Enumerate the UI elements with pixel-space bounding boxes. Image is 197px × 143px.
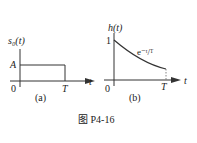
panel-b-T-label: T (161, 82, 167, 92)
panel-a-y-axis-label: s₀(t) (8, 36, 25, 46)
panel-b-level-label: 1 (106, 36, 111, 46)
panel-b-curve-label: e⁻ᵗ/ᵀ (137, 48, 153, 57)
panel-b-sublabel: (b) (129, 93, 141, 103)
panel-b-diagram (104, 33, 181, 86)
panel-b-origin-label: 0 (105, 84, 110, 94)
figure-caption: 图 P4-16 (78, 115, 114, 125)
panel-a-diagram (10, 49, 95, 87)
panel-b-x-arrow-icon (171, 77, 181, 83)
panel-b-x-axis-label: t (184, 76, 187, 86)
panel-a-level-label: A (10, 60, 16, 70)
panel-a-sublabel: (a) (35, 93, 46, 103)
panel-a-rect-pulse (20, 65, 65, 81)
panel-b-y-axis-label: h(t) (108, 23, 122, 33)
panel-a-x-axis-label: t (89, 77, 92, 87)
panel-a-T-label: T (62, 84, 68, 94)
panel-a-origin-label: 0 (11, 84, 16, 94)
